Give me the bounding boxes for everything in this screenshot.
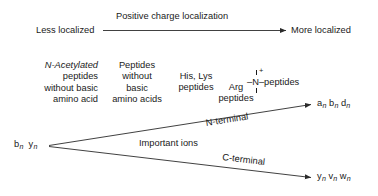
category-line: amino acids	[101, 94, 173, 105]
category-line: basic	[101, 83, 173, 94]
subscript-n: n	[33, 143, 37, 151]
subscript-n: n	[322, 102, 326, 110]
c-terminal-branch-arrow	[49, 147, 311, 178]
ammonium-peptides-label: peptides	[264, 77, 299, 87]
subscript-n: n	[346, 102, 350, 110]
ion-w: w	[340, 171, 347, 181]
category-line: peptides	[212, 93, 260, 104]
category-line: N-Acetylated	[24, 60, 98, 71]
axis-title: Positive charge localization	[116, 11, 228, 22]
positive-charge-label: +	[259, 67, 263, 74]
axis-left-label: Less localized	[36, 25, 94, 36]
bond-down-icon	[256, 88, 257, 93]
subscript-n: n	[19, 143, 23, 151]
italic-n-prefix: N-Acetylated	[45, 60, 98, 70]
category-line: peptides	[24, 71, 98, 82]
important-ions-label: Important ions	[139, 138, 198, 149]
nitrogen-label: N	[252, 77, 259, 87]
subscript-n: n	[347, 175, 351, 183]
category-line: amino acid	[24, 94, 98, 105]
peptide-fragmentation-diagram: Less localized Positive charge localizat…	[0, 0, 378, 196]
category-column-no-basic-aa: Peptides without basic amino acids	[101, 60, 173, 105]
quaternary-ammonium-group: –+N–peptides	[247, 77, 299, 87]
nitrogen-atom-core: +N	[252, 77, 259, 87]
axis-right-label: More localized	[291, 25, 351, 36]
n-terminal-ion-products: anbndn	[317, 98, 350, 110]
subscript-n: n	[333, 175, 337, 183]
category-line: Peptides	[101, 60, 173, 71]
category-line: without basic	[24, 83, 98, 94]
subscript-n: n	[322, 175, 326, 183]
category-line: without	[101, 71, 173, 82]
category-column-n-acetylated: N-Acetylated peptides without basic amin…	[24, 60, 98, 105]
category-line: His, Lys	[168, 71, 224, 82]
bond-up-icon	[256, 70, 257, 75]
c-terminal-ion-products: ynvnwn	[317, 171, 351, 183]
subscript-n: n	[334, 102, 338, 110]
origin-ion-label: bnyn	[14, 139, 37, 151]
